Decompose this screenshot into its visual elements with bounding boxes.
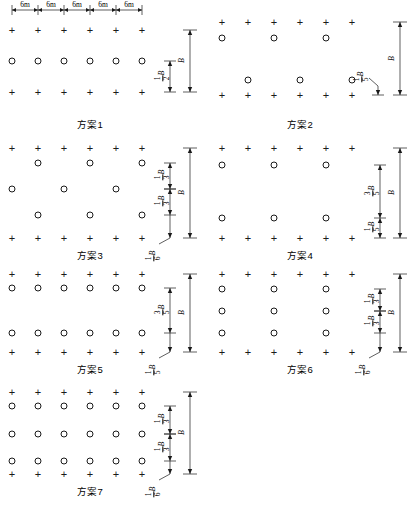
pile-cross: + (112, 388, 121, 397)
pile-circle (87, 431, 94, 438)
pile-cross: + (34, 470, 43, 479)
pile-cross: + (86, 470, 95, 479)
pile-circle (87, 403, 94, 410)
pile-cross: + (60, 388, 69, 397)
pile-circle (35, 431, 42, 438)
pile-circle (113, 458, 120, 465)
pile-cross: + (138, 470, 147, 479)
pile-circle (9, 431, 16, 438)
pile-cross: + (112, 470, 121, 479)
pile-circle (9, 458, 16, 465)
pile-cross: + (60, 470, 69, 479)
pile-cross: + (86, 388, 95, 397)
pile-cross: + (34, 388, 43, 397)
pile-circle (113, 403, 120, 410)
pile-circle (61, 403, 68, 410)
dimension-label-B: B (177, 430, 186, 435)
pile-cross: + (138, 388, 147, 397)
pile-circle (139, 403, 146, 410)
dimension-label-fraction: 16B (145, 487, 161, 498)
pile-circle (9, 403, 16, 410)
scheme-caption: 方案7 (77, 484, 103, 498)
pile-circle (139, 431, 146, 438)
dimension-label-fraction: 13B (154, 441, 170, 452)
pile-cross: + (8, 388, 17, 397)
pile-circle (87, 458, 94, 465)
pile-circle (35, 458, 42, 465)
pile-circle (113, 431, 120, 438)
pile-circle (139, 458, 146, 465)
dimension-label-fraction: 13B (154, 414, 170, 425)
pile-circle (61, 458, 68, 465)
pile-circle (61, 431, 68, 438)
pile-circle (35, 403, 42, 410)
pile-cross: + (8, 470, 17, 479)
scheme-7: ++++++++++++方案7B13B13B16B (0, 0, 417, 508)
